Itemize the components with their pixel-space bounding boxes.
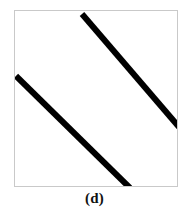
figure-caption: (d): [0, 189, 189, 208]
figure-panel: (d): [0, 0, 189, 211]
plot-frame: [14, 10, 178, 187]
plot-canvas: [15, 11, 178, 187]
lower-line-segment: [16, 76, 130, 187]
upper-line-segment: [82, 14, 178, 127]
